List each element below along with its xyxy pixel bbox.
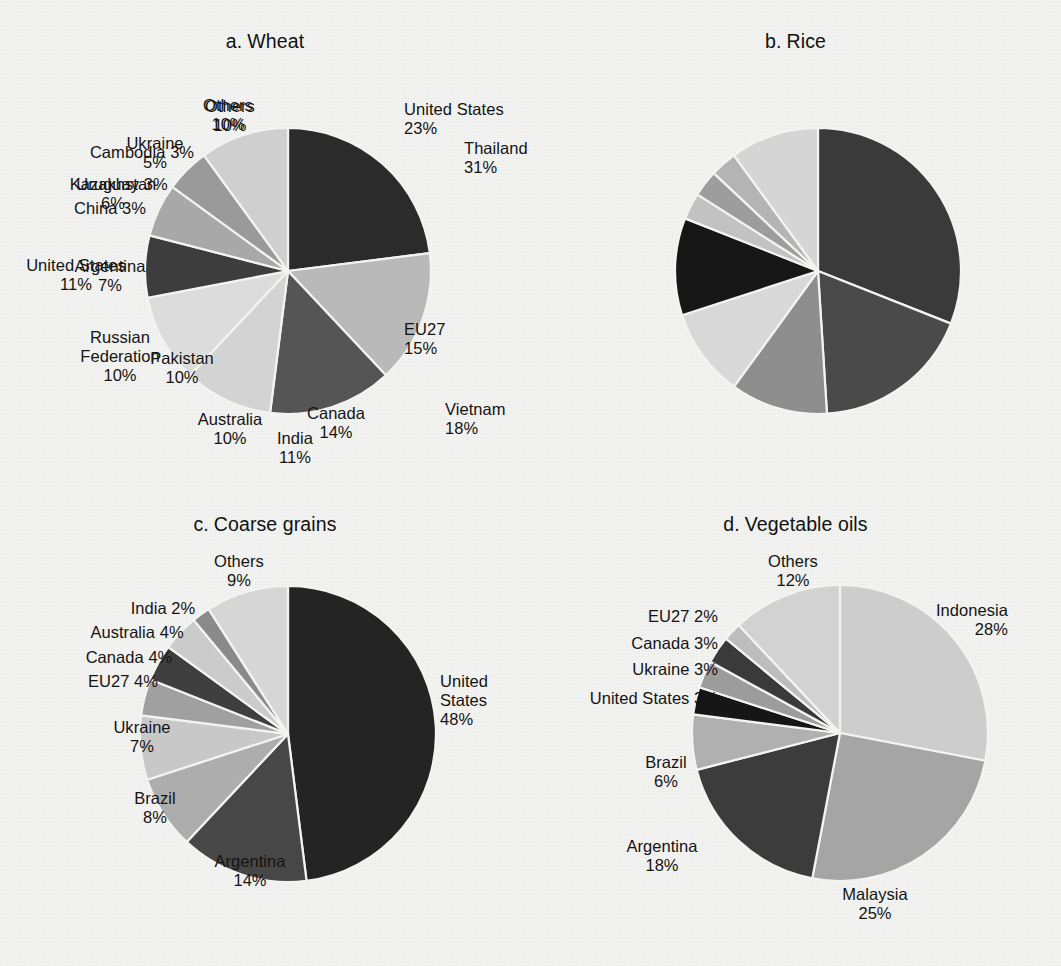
pie-slice-label: Ukraine 7% [32,718,252,756]
pie-slice-label: EU27 2% [0,607,718,626]
pie-slice-label: Argentina 14% [140,852,360,890]
pie-slice-label-layer: United States 23%EU27 15%Canada 14%Austr… [0,0,1061,966]
pie-slice-label: Vietnam 18% [445,400,506,438]
pie-slice-label: Uruguay 3% [12,175,232,194]
pie-slice-label: Others 12% [683,552,903,590]
pie-slice-label: India 11% [185,429,405,467]
pie-slice-label: United States 23% [404,100,504,138]
pie-slice-label: Cambodia 3% [32,143,252,162]
pie-slice-label: United States 11% [0,256,186,294]
pie-slice-label: Others 9% [129,552,349,590]
pie-slice-label: Pakistan 10% [72,349,292,387]
pie-slice-label: China 3% [0,199,220,218]
pie-slice-label: Brazil 6% [556,753,776,791]
pie-slice-label: Canada 3% [0,634,718,653]
pie-slice-label: Thailand 31% [464,139,528,177]
pie-slice-label: Malaysia 25% [765,885,985,923]
pie-slice-label: Brazil 8% [45,789,265,827]
pie-slice-label: United States 3% [0,689,718,708]
pie-slice-label: Others 10% [120,97,340,135]
pie-slice-label: EU27 15% [404,320,445,358]
pie-slice-label: Argentina 18% [552,837,772,875]
pie-slice-label: Ukraine 3% [0,660,718,679]
